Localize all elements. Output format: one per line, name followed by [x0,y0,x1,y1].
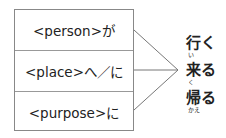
furigana: く [188,79,216,85]
verb-text: 来る [186,61,216,79]
furigana: い [188,52,216,58]
furigana: かえ [188,107,216,113]
verb-text: 行く [186,34,216,52]
verb-text: 帰る [186,89,216,107]
verb-iku: 行く い [186,36,216,58]
verb-kuru: 来る く [186,63,216,85]
verb-kaeru: 帰る かえ [186,91,216,113]
